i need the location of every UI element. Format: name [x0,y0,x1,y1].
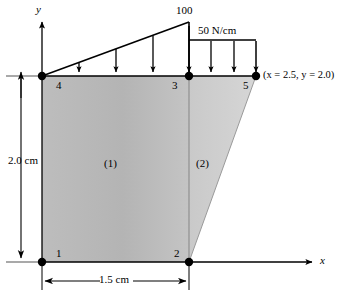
element-label-1: (1) [104,158,117,169]
triangular-load-peak-label: 100 [176,5,193,16]
horizontal-dimension-label: 1.5 cm [99,274,129,285]
node-label-2: 2 [174,248,180,259]
node-2-dot [185,258,193,266]
node-5-dot [252,72,260,80]
node-1-dot [38,258,46,266]
y-axis-label: y [36,4,41,15]
node-5-coordinate-annotation: (x = 2.5, y = 2.0) [263,70,334,81]
node-label-3: 3 [172,80,178,91]
x-axis-label: x [320,255,325,266]
node-label-1: 1 [56,248,62,259]
uniform-load-label: 50 N/cm [198,25,236,36]
element-label-2: (2) [196,158,209,169]
node-label-5: 5 [243,80,249,91]
element-1-region [42,76,189,262]
vertical-dimension-label: 2.0 cm [8,155,38,166]
figure-canvas: y x 4 3 5 1 2 (1) (2) 100 50 N/cm 2.0 cm… [0,0,347,298]
node-4-dot [38,72,46,80]
node-3-dot [185,72,193,80]
node-label-4: 4 [56,80,62,91]
